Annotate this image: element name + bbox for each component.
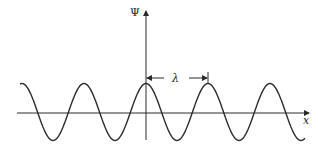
x-axis-label: x xyxy=(303,114,310,127)
wave-diagram: λ Ψ x xyxy=(0,0,318,148)
wave-curve xyxy=(20,84,305,141)
y-axis-label: Ψ xyxy=(130,6,140,19)
wavelength-label: λ xyxy=(171,72,179,85)
